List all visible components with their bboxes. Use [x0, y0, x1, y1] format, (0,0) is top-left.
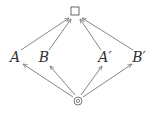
- edge-bottom-to-B: [50, 66, 75, 95]
- edge-bottom-to-Bprime: [83, 64, 132, 97]
- hasse-diagram: A B A′ B′: [0, 0, 156, 115]
- node-Aprime: A′: [96, 49, 112, 65]
- node-A: A: [8, 49, 20, 65]
- bottom-circled-dot-node: [74, 97, 82, 105]
- edge-bottom-to-A: [23, 64, 73, 97]
- edge-A-to-top: [21, 18, 69, 50]
- top-square-node: [71, 7, 79, 15]
- node-Bprime: B′: [131, 49, 146, 65]
- node-B: B: [38, 49, 49, 65]
- edge-Bprime-to-top: [82, 18, 133, 50]
- edge-bottom-to-Aprime: [81, 66, 102, 95]
